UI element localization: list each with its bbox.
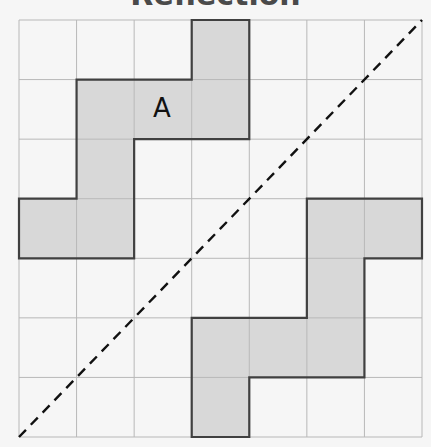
shape-cell bbox=[307, 318, 365, 378]
shape-cell bbox=[192, 318, 250, 378]
shape-cell bbox=[249, 318, 307, 378]
shape-cell bbox=[19, 199, 77, 259]
shape-label-a: A bbox=[153, 95, 171, 121]
shape-cell bbox=[307, 199, 365, 259]
shape-cell bbox=[307, 258, 365, 318]
shape-cell bbox=[77, 80, 135, 140]
shape-cell bbox=[364, 199, 422, 259]
shape-cell bbox=[192, 20, 250, 80]
grid-canvas bbox=[0, 0, 431, 447]
shape-cell bbox=[77, 199, 135, 259]
shape-cell bbox=[192, 377, 250, 437]
shape-cell bbox=[77, 139, 135, 199]
shape-cell bbox=[192, 80, 250, 140]
